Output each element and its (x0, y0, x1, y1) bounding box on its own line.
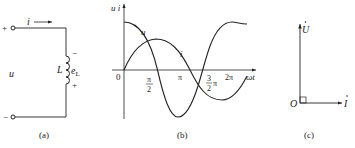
curve-u-label: u (141, 27, 146, 37)
caption-a: (a) (39, 130, 49, 140)
tick-2pi: 2π (225, 73, 233, 82)
terminal-top (11, 26, 15, 30)
y-axis-label: u i (111, 3, 121, 13)
terminal-plus-label: + (2, 23, 7, 33)
svg-text:2: 2 (147, 85, 151, 94)
svg-text:2: 2 (207, 84, 211, 93)
wire-bottom (15, 84, 66, 117)
panel-b-waveform-chart: u i ωt 0 u i π 2 π 3 2 π 2π (b) (111, 3, 256, 140)
inductor-label: L (56, 64, 63, 75)
voltage-label: u (9, 68, 14, 79)
panel-a-circuit: + − i u L eL − + (a) (2, 16, 80, 140)
panel-c-phasor-diagram: O U I (c) (290, 21, 348, 140)
origin-label: O (290, 98, 297, 109)
tick-pi-half: π 2 (146, 75, 153, 94)
emf-top-sign: − (72, 48, 77, 58)
origin-label: 0 (116, 72, 121, 82)
emf-label: eL (71, 65, 80, 78)
current-phasor-label: I (343, 98, 348, 109)
wire-top (15, 28, 66, 56)
terminal-minus-label: − (3, 112, 8, 122)
tick-pi: π (178, 73, 182, 82)
current-label: i (27, 16, 30, 27)
svg-text:π: π (213, 79, 217, 88)
inductor-coil-icon (66, 56, 70, 84)
emf-bottom-sign: + (72, 80, 77, 90)
caption-c: (c) (304, 130, 314, 140)
x-axis-label: ωt (246, 72, 255, 82)
svg-text:π: π (147, 75, 151, 84)
curve-i (124, 39, 247, 100)
right-angle-icon (300, 97, 306, 103)
voltage-phasor-dot (305, 21, 307, 23)
current-phasor-dot (346, 95, 348, 97)
voltage-phasor-label: U (302, 24, 310, 35)
svg-text:3: 3 (207, 74, 211, 83)
tick-3pi-half: 3 2 π (206, 74, 217, 93)
caption-b: (b) (177, 130, 188, 140)
terminal-bottom (11, 115, 15, 119)
